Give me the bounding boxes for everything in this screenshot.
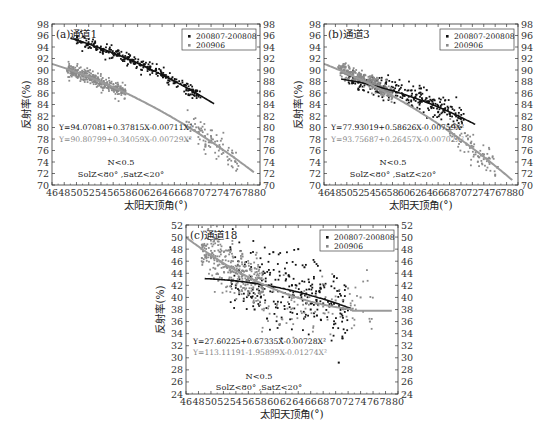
- y-tick-label-left: 34: [171, 328, 183, 339]
- data-point: [335, 299, 337, 301]
- y-tick-label-left: 42: [171, 280, 183, 291]
- y-tick-label-left: 82: [309, 111, 321, 122]
- legend: 200807-200808200906: [320, 230, 395, 251]
- y-tick-label-right: 72: [263, 168, 275, 179]
- y-tick-label-left: 70: [37, 180, 49, 191]
- data-point: [228, 158, 230, 160]
- data-point: [229, 269, 231, 271]
- legend-label: 200906: [196, 41, 225, 50]
- panel-title: (c)通道18: [190, 229, 237, 241]
- x-tick-label: 54: [230, 396, 242, 407]
- y-tick-label-right: 86: [521, 88, 533, 99]
- y-tick-label-right: 88: [263, 76, 275, 87]
- y-tick-label-left: 96: [37, 30, 49, 41]
- legend-marker-icon: [326, 236, 329, 239]
- y-tick-label-left: 76: [37, 145, 49, 156]
- x-tick-label: 78: [242, 187, 254, 198]
- x-tick-label: 56: [242, 396, 254, 407]
- x-tick-label: 48: [329, 187, 341, 198]
- condition-label: SolZ<80° ,SatZ<20°: [350, 169, 436, 179]
- y-tick-label-right: 74: [263, 157, 275, 168]
- x-tick-label: 74: [217, 187, 229, 198]
- y-tick-label-right: 78: [263, 134, 275, 145]
- y-tick-label-left: 90: [37, 65, 49, 76]
- fit-equation: Y=27.60225+0.67335X-0.00728X²: [192, 337, 326, 346]
- x-tick-label: 50: [70, 187, 82, 198]
- x-tick-label: 78: [501, 187, 513, 198]
- y-tick-label-left: 94: [309, 42, 321, 53]
- y-tick-label-right: 76: [521, 145, 533, 156]
- x-tick-label: 64: [156, 187, 168, 198]
- x-tick-label: 68: [181, 187, 193, 198]
- plot-area: [324, 62, 512, 180]
- y-tick-label-right: 94: [263, 42, 275, 53]
- y-tick-label-right: 92: [521, 53, 533, 64]
- y-tick-label-left: 92: [37, 53, 49, 64]
- condition-label: N<0.5: [107, 157, 134, 167]
- legend-marker-icon: [188, 35, 191, 38]
- data-point: [360, 296, 362, 298]
- y-tick-label-left: 76: [309, 145, 321, 156]
- y-tick-label-right: 84: [263, 99, 275, 110]
- condition-label: SolZ<80° ,SatZ<20°: [78, 169, 164, 179]
- x-tick-label: 54: [95, 187, 107, 198]
- data-point: [338, 362, 340, 364]
- chart-panel-c: 4648505254565860626466687072747678802424…: [154, 217, 413, 420]
- x-tick-label: 64: [292, 396, 304, 407]
- x-tick-label: 62: [280, 396, 292, 407]
- y-tick-label-right: 98: [263, 19, 275, 30]
- y-tick-label-left: 72: [309, 168, 321, 179]
- y-tick-label-left: 24: [171, 389, 183, 400]
- data-point: [426, 89, 428, 91]
- x-tick-label: 72: [205, 187, 217, 198]
- y-tick-label-left: 80: [37, 122, 49, 133]
- y-tick-label-left: 74: [37, 157, 49, 168]
- x-tick-label: 72: [466, 187, 478, 198]
- x-tick-label: 74: [478, 187, 490, 198]
- legend-marker-icon: [326, 245, 329, 248]
- y-tick-label-right: 42: [401, 280, 413, 291]
- y-tick-label-right: 96: [521, 30, 533, 41]
- y-tick-label-left: 74: [309, 157, 321, 168]
- y-tick-label-right: 94: [521, 42, 533, 53]
- y-tick-label-left: 50: [171, 232, 183, 243]
- data-point: [272, 290, 274, 292]
- data-point: [222, 152, 224, 154]
- y-tick-label-right: 70: [263, 180, 275, 191]
- x-tick-label: 74: [355, 396, 367, 407]
- y-tick-label-right: 40: [401, 292, 413, 303]
- data-point: [210, 257, 212, 259]
- data-point: [155, 68, 157, 70]
- legend-label: 200906: [334, 242, 363, 251]
- x-tick-label: 54: [364, 187, 376, 198]
- x-tick-label: 56: [107, 187, 119, 198]
- fit-equation: Y=113.11191-1.95899X-0.01274X²: [192, 348, 327, 357]
- x-tick-label: 60: [132, 187, 144, 198]
- y-tick-label-right: 98: [521, 19, 533, 30]
- data-point: [241, 275, 243, 277]
- legend-label: 200906: [454, 41, 483, 50]
- chart-panel-a: 4648505254565860626466687072747678807070…: [20, 19, 275, 212]
- fit-equation: Y=93.75687+0.26457X-0.00702X²: [330, 135, 464, 144]
- legend-label: 200807-200808: [196, 32, 257, 41]
- y-tick-label-left: 84: [309, 99, 321, 110]
- data-point: [204, 254, 206, 256]
- y-tick-label-right: 48: [401, 244, 413, 255]
- y-tick-label-left: 88: [309, 76, 321, 87]
- y-tick-label-left: 48: [171, 244, 183, 255]
- legend-marker-icon: [188, 44, 191, 47]
- x-axis-title: 太阳天顶角(°): [389, 199, 452, 211]
- y-tick-label-right: 38: [401, 304, 413, 315]
- x-tick-label: 68: [317, 396, 329, 407]
- y-tick-label-right: 90: [263, 65, 275, 76]
- data-point: [477, 155, 479, 157]
- x-tick-label: 76: [229, 187, 241, 198]
- y-tick-label-left: 32: [171, 340, 183, 351]
- x-tick-label: 56: [375, 187, 387, 198]
- plot-area: [52, 31, 254, 172]
- x-tick-label: 66: [305, 396, 317, 407]
- x-tick-label: 52: [83, 187, 95, 198]
- x-tick-label: 78: [379, 396, 391, 407]
- legend-marker-icon: [446, 44, 449, 47]
- data-point: [272, 251, 274, 253]
